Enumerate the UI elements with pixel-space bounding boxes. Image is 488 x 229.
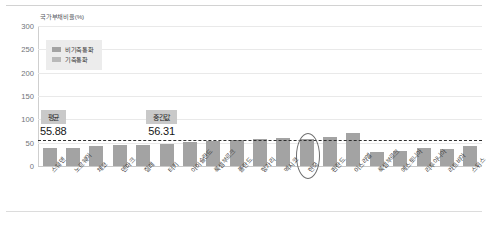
y-axis-title: 국가부채비율(%) <box>40 12 84 21</box>
legend-item-non-reserve: 비기축통화 <box>52 45 94 54</box>
bar-series <box>38 26 482 166</box>
y-axis-tick-label: 200 <box>21 68 34 77</box>
chart-legend: 비기축통화 기축통화 <box>46 40 102 70</box>
y-axis-tick-label: 50 <box>26 138 34 147</box>
legend-label: 비기축통화 <box>65 45 94 54</box>
median-tag: 중간값 <box>146 110 177 123</box>
average-value: 55.88 <box>40 125 67 137</box>
figure-bottom-rule <box>6 211 482 212</box>
legend-swatch-icon <box>52 57 61 62</box>
x-axis-labels: 스웨덴노르웨이체코덴마크칠레터키아이슬란드룩셈부르크폴란드헝가리멕시코한국핀란드… <box>38 168 482 228</box>
legend-label: 기축통화 <box>65 55 88 64</box>
average-callout: 평균 55.88 <box>40 106 67 137</box>
y-axis-tick-label: 100 <box>21 115 34 124</box>
y-axis-tick-label: 250 <box>21 45 34 54</box>
y-axis-tick-label: 0 <box>30 162 34 171</box>
median-reference-line <box>38 140 482 141</box>
chart-figure: 국가부채비율(%) 050100150200250300 비기축통화 기축통화 … <box>0 0 488 229</box>
median-callout: 중간값 56.31 <box>146 106 177 137</box>
median-value: 56.31 <box>146 125 177 137</box>
legend-swatch-icon <box>52 47 61 52</box>
average-tag: 평균 <box>41 110 66 123</box>
figure-top-rule <box>6 5 482 6</box>
legend-item-reserve: 기축통화 <box>52 55 94 64</box>
y-axis-tick-label: 300 <box>21 22 34 31</box>
y-axis-tick-label: 150 <box>21 92 34 101</box>
plot-area: 050100150200250300 <box>38 26 482 166</box>
